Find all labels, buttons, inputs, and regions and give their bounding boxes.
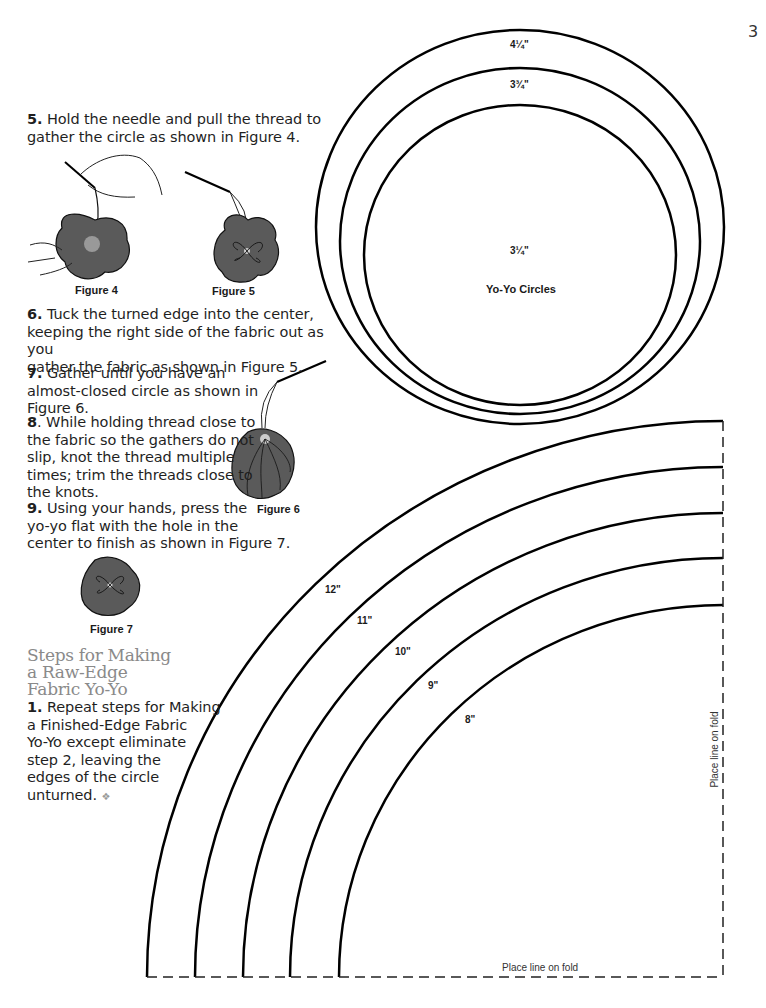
circle-label-outer: 4¼" bbox=[510, 39, 529, 50]
arc-label-10: 10" bbox=[395, 646, 411, 657]
fold-label-bottom: Place line on fold bbox=[502, 962, 578, 973]
arc-label-9: 9" bbox=[428, 680, 438, 691]
figure-7-caption: Figure 7 bbox=[90, 623, 133, 635]
step-8: 8. While holding thread close to the fab… bbox=[27, 414, 267, 502]
raw-edge-step-1: 1. Repeat steps for Making a Finished-Ed… bbox=[27, 699, 227, 805]
step-7: 7. Gather until you have an almost-close… bbox=[27, 365, 267, 418]
arc-label-12: 12" bbox=[325, 584, 341, 595]
yoyo-circles-title: Yo-Yo Circles bbox=[486, 283, 556, 295]
figure-4-illustration bbox=[28, 155, 162, 279]
fold-label-side: Place line on fold bbox=[709, 700, 720, 800]
section-heading: Steps for Making a Raw-Edge Fabric Yo-Yo bbox=[27, 647, 171, 698]
step-9: 9. Using your hands, press the yo-yo fla… bbox=[27, 500, 327, 553]
arc-label-11: 11" bbox=[357, 615, 372, 626]
figure-5-illustration bbox=[185, 172, 279, 282]
circle-label-middle: 3¾" bbox=[510, 79, 529, 90]
arc-label-8: 8" bbox=[465, 714, 475, 725]
end-mark-icon: ❖ bbox=[102, 791, 111, 802]
figure-4-caption: Figure 4 bbox=[75, 284, 118, 296]
figure-7-illustration bbox=[81, 557, 139, 615]
circle-label-inner: 3¼" bbox=[510, 245, 529, 256]
figure-5-caption: Figure 5 bbox=[212, 285, 255, 297]
